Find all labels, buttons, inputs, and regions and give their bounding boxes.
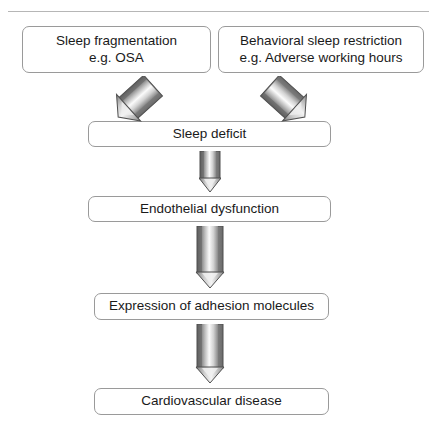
block-arrow-down-icon xyxy=(195,324,225,385)
node-cardiovascular-disease: Cardiovascular disease xyxy=(94,388,329,415)
block-arrow-diagonal-down-right-icon xyxy=(100,76,172,126)
node-label-line1: Behavioral sleep restriction xyxy=(240,33,402,48)
block-arrow-down-icon xyxy=(199,151,221,193)
block-arrow-down-icon xyxy=(195,226,225,290)
node-expression-of-adhesion-molecules: Expression of adhesion molecules xyxy=(94,293,329,320)
node-label: Sleep fragmentation e.g. OSA xyxy=(56,33,177,67)
node-label-line2: e.g. Adverse working hours xyxy=(240,50,403,67)
page-running-head xyxy=(286,0,426,8)
node-label: Endothelial dysfunction xyxy=(140,201,279,218)
node-sleep-fragmentation: Sleep fragmentation e.g. OSA xyxy=(22,26,211,73)
node-label-line2: e.g. OSA xyxy=(56,50,177,67)
node-label: Cardiovascular disease xyxy=(141,393,281,410)
node-label: Sleep deficit xyxy=(173,126,247,143)
block-arrow-diagonal-down-left-icon xyxy=(251,76,323,126)
node-label: Behavioral sleep restriction e.g. Advers… xyxy=(240,33,403,67)
node-endothelial-dysfunction: Endothelial dysfunction xyxy=(88,196,331,222)
flowchart-figure: Sleep fragmentation e.g. OSA Behavioral … xyxy=(0,0,437,424)
header-rule xyxy=(8,11,429,12)
node-behavioral-sleep-restriction: Behavioral sleep restriction e.g. Advers… xyxy=(218,26,424,73)
node-label-line1: Sleep fragmentation xyxy=(56,33,177,48)
node-label: Expression of adhesion molecules xyxy=(109,298,314,315)
